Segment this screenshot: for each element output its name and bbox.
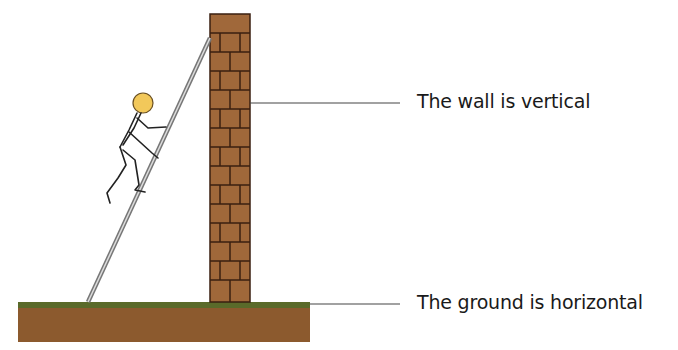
brick-wall (210, 14, 250, 302)
wall-label: The wall is vertical (417, 90, 590, 112)
ladder (88, 38, 210, 302)
ground (18, 302, 310, 342)
ground-label: The ground is horizontal (417, 291, 643, 313)
